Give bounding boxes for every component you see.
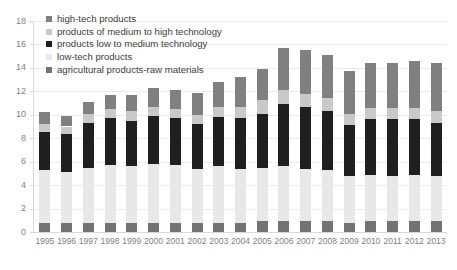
bar-segment[interactable]: [387, 176, 398, 222]
bar-segment[interactable]: [105, 165, 116, 222]
bar-segment[interactable]: [431, 123, 442, 176]
bar-segment[interactable]: [126, 121, 137, 167]
bar-segment[interactable]: [213, 107, 224, 118]
bar-segment[interactable]: [257, 221, 268, 232]
legend-item[interactable]: high-tech products: [46, 13, 222, 26]
bar-segment[interactable]: [387, 63, 398, 108]
bar-segment[interactable]: [322, 221, 333, 232]
legend-item[interactable]: products of medium to high technology: [46, 26, 222, 39]
bar-segment[interactable]: [300, 50, 311, 93]
bar-group[interactable]: [257, 21, 268, 232]
bar-segment[interactable]: [387, 108, 398, 120]
legend-item[interactable]: low-tech products: [46, 51, 222, 64]
bar-segment[interactable]: [213, 166, 224, 222]
bar-segment[interactable]: [192, 223, 203, 232]
bar-segment[interactable]: [278, 221, 289, 232]
bar-segment[interactable]: [235, 77, 246, 106]
bar-segment[interactable]: [409, 108, 420, 120]
bar-segment[interactable]: [431, 111, 442, 123]
bar-segment[interactable]: [387, 119, 398, 175]
bar-segment[interactable]: [148, 164, 159, 223]
bar-segment[interactable]: [83, 168, 94, 223]
bar-segment[interactable]: [409, 119, 420, 174]
bar-segment[interactable]: [83, 123, 94, 168]
bar-segment[interactable]: [344, 71, 355, 113]
bar-segment[interactable]: [278, 166, 289, 221]
bar-segment[interactable]: [213, 117, 224, 166]
bar-group[interactable]: [300, 21, 311, 232]
bar-segment[interactable]: [257, 114, 268, 168]
bar-segment[interactable]: [322, 98, 333, 111]
bar-segment[interactable]: [213, 223, 224, 232]
bar-group[interactable]: [322, 21, 333, 232]
bar-segment[interactable]: [192, 169, 203, 223]
bar-segment[interactable]: [61, 172, 72, 222]
bar-segment[interactable]: [192, 93, 203, 115]
bar-segment[interactable]: [105, 109, 116, 118]
bar-segment[interactable]: [365, 175, 376, 222]
bar-segment[interactable]: [278, 90, 289, 104]
bar-segment[interactable]: [365, 119, 376, 174]
bar-segment[interactable]: [300, 94, 311, 107]
bar-segment[interactable]: [105, 223, 116, 232]
bar-segment[interactable]: [61, 127, 72, 134]
bar-segment[interactable]: [192, 115, 203, 124]
bar-segment[interactable]: [365, 108, 376, 120]
bar-segment[interactable]: [148, 223, 159, 232]
bar-segment[interactable]: [61, 116, 72, 127]
bar-segment[interactable]: [235, 223, 246, 232]
bar-segment[interactable]: [170, 109, 181, 118]
bar-group[interactable]: [409, 21, 420, 232]
bar-segment[interactable]: [105, 95, 116, 109]
bar-segment[interactable]: [148, 88, 159, 107]
bar-segment[interactable]: [387, 221, 398, 232]
bar-segment[interactable]: [148, 107, 159, 116]
bar-segment[interactable]: [39, 170, 50, 223]
bar-segment[interactable]: [322, 55, 333, 98]
bar-segment[interactable]: [83, 223, 94, 232]
bar-segment[interactable]: [344, 176, 355, 223]
bar-segment[interactable]: [365, 221, 376, 232]
bar-group[interactable]: [431, 21, 442, 232]
bar-group[interactable]: [387, 21, 398, 232]
bar-segment[interactable]: [322, 111, 333, 170]
bar-segment[interactable]: [300, 169, 311, 222]
bar-segment[interactable]: [39, 112, 50, 124]
bar-segment[interactable]: [300, 221, 311, 232]
legend-item[interactable]: agricultural products-raw materials: [46, 63, 222, 76]
bar-segment[interactable]: [409, 175, 420, 222]
bar-segment[interactable]: [278, 48, 289, 90]
bar-segment[interactable]: [126, 95, 137, 111]
bar-segment[interactable]: [61, 134, 72, 173]
bar-segment[interactable]: [105, 118, 116, 165]
bar-group[interactable]: [344, 21, 355, 232]
bar-segment[interactable]: [409, 221, 420, 232]
bar-segment[interactable]: [431, 176, 442, 222]
bar-group[interactable]: [235, 21, 246, 232]
bar-segment[interactable]: [170, 223, 181, 232]
bar-segment[interactable]: [344, 114, 355, 126]
bar-segment[interactable]: [235, 169, 246, 223]
bar-segment[interactable]: [431, 63, 442, 111]
bar-segment[interactable]: [39, 132, 50, 170]
bar-segment[interactable]: [126, 223, 137, 232]
bar-segment[interactable]: [257, 69, 268, 99]
bar-segment[interactable]: [61, 223, 72, 232]
bar-segment[interactable]: [148, 116, 159, 164]
bar-segment[interactable]: [344, 125, 355, 175]
bar-segment[interactable]: [39, 223, 50, 232]
bar-group[interactable]: [278, 21, 289, 232]
bar-segment[interactable]: [170, 90, 181, 109]
bar-segment[interactable]: [235, 118, 246, 168]
bar-segment[interactable]: [257, 168, 268, 222]
bar-segment[interactable]: [409, 61, 420, 108]
bar-segment[interactable]: [39, 124, 50, 132]
bar-segment[interactable]: [213, 82, 224, 107]
bar-group[interactable]: [365, 21, 376, 232]
bar-segment[interactable]: [257, 100, 268, 114]
bar-segment[interactable]: [322, 170, 333, 222]
bar-segment[interactable]: [83, 102, 94, 114]
bar-segment[interactable]: [83, 114, 94, 123]
bar-segment[interactable]: [126, 166, 137, 222]
bar-segment[interactable]: [431, 221, 442, 232]
